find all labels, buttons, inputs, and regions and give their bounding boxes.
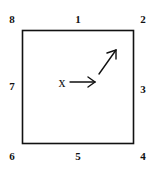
arrow-diagonal-icon: [99, 50, 116, 74]
label-8: 8: [9, 14, 15, 25]
label-6: 6: [9, 151, 15, 162]
label-1: 1: [75, 14, 81, 25]
square-box: [23, 31, 134, 144]
center-x-label: x: [59, 76, 66, 90]
label-7: 7: [9, 81, 15, 92]
label-5: 5: [75, 151, 81, 162]
arrow-right-icon: [70, 77, 95, 87]
diagram-canvas: [0, 0, 155, 170]
label-4: 4: [140, 151, 146, 162]
label-3: 3: [140, 84, 146, 95]
label-2: 2: [140, 14, 146, 25]
